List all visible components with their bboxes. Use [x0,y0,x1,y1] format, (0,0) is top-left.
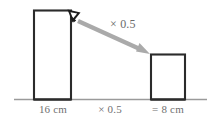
baseline-operation-label: × 0.5 [88,104,132,115]
tall-bar-label: 16 cm [33,104,73,115]
arrow-label: × 0.5 [110,18,136,30]
short-bar-rect [151,55,185,100]
scaling-diagram: × 0.5 16 cm × 0.5 = 8 cm [0,0,221,123]
tall-bar-rect [34,11,71,100]
short-bar-label: = 8 cm [144,104,192,115]
